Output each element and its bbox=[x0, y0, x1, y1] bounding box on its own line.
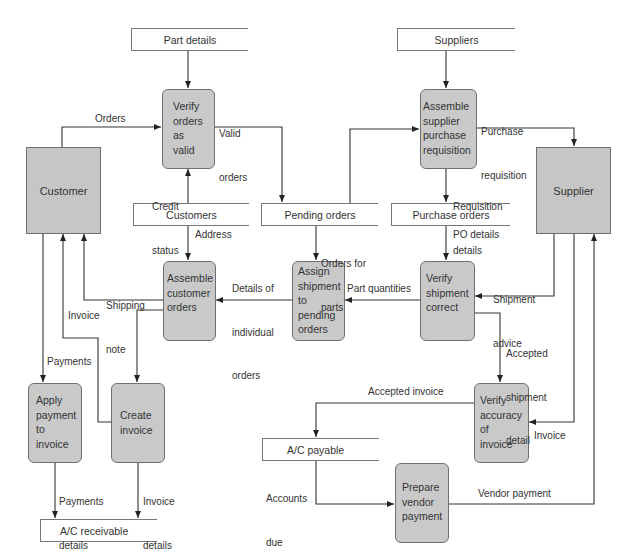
flow-label-orders-for-parts: Orders for parts bbox=[321, 228, 366, 330]
flow-label-line: details bbox=[453, 244, 502, 259]
flow-label-line: status bbox=[152, 244, 179, 259]
flow-label-shipping-note: Shipping note bbox=[106, 270, 145, 372]
flow-label-line: Requisition bbox=[453, 200, 502, 215]
flow-label-orders: Orders bbox=[95, 112, 126, 127]
flow-label-line: individual bbox=[232, 326, 274, 341]
process-label: Verify bbox=[426, 271, 474, 286]
flow-label-line: shipment bbox=[506, 391, 548, 406]
external-entity-customer[interactable]: Customer bbox=[26, 147, 101, 234]
flow-label-payments: Payments bbox=[47, 355, 91, 370]
entity-label: Customer bbox=[40, 185, 88, 197]
flow-label-line: Shipment bbox=[493, 293, 535, 308]
flow-label-line: Details of bbox=[232, 282, 274, 297]
data-store-part-details[interactable]: Part details bbox=[131, 28, 248, 51]
process-label: customer bbox=[167, 286, 215, 301]
flow-label-line: Accounts bbox=[266, 492, 307, 507]
flow-label-accepted-invoice: Accepted invoice bbox=[368, 385, 444, 400]
entity-label: Supplier bbox=[553, 185, 593, 197]
flow-label-valid-orders: Valid orders bbox=[219, 98, 247, 200]
flow-label-vendor-payment: Vendor payment bbox=[478, 487, 551, 502]
process-create-invoice[interactable]: Create invoice bbox=[111, 383, 165, 463]
flow-label-address: Address bbox=[195, 228, 232, 243]
process-label: orders bbox=[173, 114, 214, 129]
flow-label-payments-details: Payments details bbox=[59, 466, 103, 558]
data-store-suppliers[interactable]: Suppliers bbox=[397, 28, 515, 51]
process-label: vendor bbox=[402, 495, 448, 510]
process-prepare-vendor-payment[interactable]: Prepare vendor payment bbox=[395, 463, 449, 543]
process-label: invoice bbox=[36, 437, 81, 452]
flow-label-po-details: PO details bbox=[453, 228, 499, 243]
flow-label-line: details bbox=[143, 539, 175, 554]
flow-label-line: Valid bbox=[219, 127, 247, 142]
flow-label-line: note bbox=[106, 343, 145, 358]
process-label: payment bbox=[402, 509, 448, 524]
flow-label-requisition-details: Requisition details bbox=[453, 171, 502, 273]
flow-label-line: Shipping bbox=[106, 299, 145, 314]
process-label: payment bbox=[36, 408, 81, 423]
process-label: correct bbox=[426, 300, 474, 315]
process-label: shipment bbox=[426, 286, 474, 301]
process-assemble-customer-orders[interactable]: Assemble customer orders bbox=[163, 261, 216, 341]
process-label: Assemble bbox=[167, 271, 215, 286]
process-assemble-purchase-requisition[interactable]: Assemble supplier purchase requisition bbox=[420, 89, 477, 169]
process-label: purchase bbox=[423, 128, 476, 143]
process-label: orders bbox=[167, 300, 215, 315]
process-label: Prepare bbox=[402, 480, 448, 495]
flow-label-line: Credit bbox=[152, 200, 179, 215]
process-apply-payment[interactable]: Apply payment to invoice bbox=[28, 383, 82, 463]
data-store-pending-orders[interactable]: Pending orders bbox=[261, 203, 378, 226]
store-label: Pending orders bbox=[284, 209, 355, 221]
store-label: Suppliers bbox=[435, 34, 479, 46]
process-label: invoice bbox=[120, 423, 164, 438]
flow-label-line: due bbox=[266, 536, 307, 551]
process-label: to bbox=[36, 422, 81, 437]
flow-label-line: orders bbox=[232, 369, 274, 384]
flow-label-line: details bbox=[59, 539, 103, 554]
flow-label-line: orders bbox=[219, 171, 247, 186]
process-label: valid bbox=[173, 143, 214, 158]
flow-label-details-individual-orders: Details of individual orders bbox=[232, 253, 274, 398]
flow-label-line: Purchase bbox=[481, 125, 527, 140]
process-label: Assemble bbox=[423, 99, 476, 114]
flow-label-line: parts bbox=[321, 301, 366, 316]
process-label: as bbox=[173, 128, 214, 143]
process-verify-orders[interactable]: Verify orders as valid bbox=[162, 89, 215, 169]
flow-label-line: Invoice bbox=[143, 495, 175, 510]
flow-label-part-quantities: Part quantities bbox=[347, 282, 411, 297]
data-store-ac-payable[interactable]: A/C payable bbox=[262, 438, 379, 461]
process-label: Create bbox=[120, 408, 164, 423]
process-label: Verify bbox=[173, 99, 214, 114]
flow-label-invoice-customer: Invoice bbox=[68, 309, 100, 324]
flow-label-line: Orders for bbox=[321, 257, 366, 272]
process-label: supplier bbox=[423, 114, 476, 129]
flow-label-credit-status: Credit status bbox=[152, 171, 179, 273]
process-verify-shipment[interactable]: Verify shipment correct bbox=[420, 261, 475, 341]
data-store-customers[interactable]: Customers bbox=[133, 203, 249, 226]
flow-label-invoice-supplier: Invoice bbox=[534, 429, 566, 444]
flow-label-invoice-details: Invoice details bbox=[143, 466, 175, 558]
process-label: Apply bbox=[36, 393, 81, 408]
external-entity-supplier[interactable]: Supplier bbox=[536, 147, 611, 234]
process-label: requisition bbox=[423, 143, 476, 158]
store-label: A/C payable bbox=[287, 444, 344, 456]
store-label: Part details bbox=[164, 34, 217, 46]
flow-label-line: Accepted bbox=[506, 347, 548, 362]
flow-label-line: Payments bbox=[59, 495, 103, 510]
flow-label-accounts-due: Accounts due bbox=[266, 463, 307, 558]
